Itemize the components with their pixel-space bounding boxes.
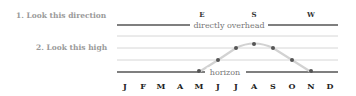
month-may: M xyxy=(195,81,204,91)
month-feb: F xyxy=(140,81,146,91)
overhead-label: directly overhead xyxy=(190,21,267,30)
month-sep: S xyxy=(270,81,276,91)
month-aug: A xyxy=(251,81,257,91)
month-jun: J xyxy=(216,81,220,91)
month-jan: J xyxy=(123,81,127,91)
dot-oct xyxy=(290,58,294,62)
dot-sep xyxy=(271,46,275,50)
dot-jul xyxy=(234,46,238,50)
dot-nov xyxy=(309,69,313,73)
month-apr: A xyxy=(177,81,183,91)
month-oct: O xyxy=(289,81,296,91)
dot-jun xyxy=(216,58,220,62)
month-dec: D xyxy=(327,81,334,91)
month-jul: J xyxy=(234,81,238,91)
dot-aug xyxy=(252,42,256,46)
dot-may xyxy=(197,69,201,73)
month-mar: M xyxy=(157,81,166,91)
horizon-label: horizon xyxy=(207,68,244,77)
month-nov: N xyxy=(307,81,314,91)
